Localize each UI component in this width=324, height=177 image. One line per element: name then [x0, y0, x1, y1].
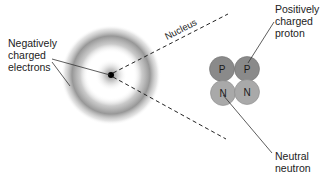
- neutron-1-symbol: N: [219, 88, 226, 99]
- atom-diagram: Nucleus P P N N Negatively charged elect…: [0, 0, 324, 177]
- proton-1-symbol: P: [219, 64, 226, 75]
- electrons-label: Negatively charged electrons: [8, 37, 57, 73]
- proton-label: Positively charged proton: [275, 3, 319, 39]
- neutron-2-symbol: N: [243, 87, 250, 98]
- nucleus-particles: P P N N: [210, 57, 260, 106]
- proton-2-symbol: P: [244, 64, 251, 75]
- neutron-label: Neutral neutron: [275, 150, 311, 174]
- nucleus-label: Nucleus: [163, 16, 199, 41]
- proton-leader-line: [248, 22, 274, 63]
